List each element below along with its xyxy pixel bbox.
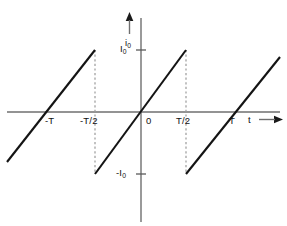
x-tick-label-neg-t: -T [45,116,54,126]
origin-label: 0 [146,116,151,126]
y-axis-arrow-icon [126,12,134,21]
sawtooth-figure: i0 I0 -I0 -T -T/2 0 T/2 T t [0,0,287,226]
x-tick-label-t: T [229,116,235,126]
y-tick-label-negative: -I0 [116,168,126,178]
x-tick-label-t-half: T/2 [176,116,190,126]
x-tick-label-neg-t-half: -T/2 [80,116,98,126]
x-axis-arrow-icon [274,116,283,124]
y-tick-label-positive: I0 [120,44,127,54]
plot-canvas [0,0,287,226]
ramp-segment-left [7,50,95,162]
x-axis-title: t [248,115,251,125]
